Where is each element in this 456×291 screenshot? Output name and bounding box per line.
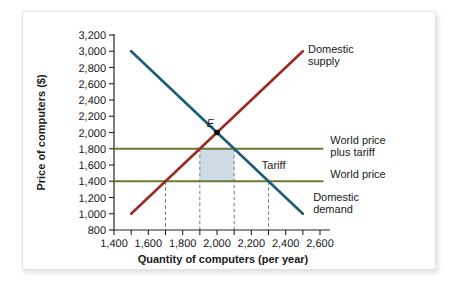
y-tick-label: 3,000 <box>78 46 106 58</box>
x-tick-label: 1,600 <box>135 238 163 250</box>
y-tick-label: 1,000 <box>78 209 106 221</box>
y-tick-label: 2,400 <box>78 95 106 107</box>
domestic-demand-label-line2: demand <box>313 203 353 215</box>
y-axis-title: Price of computers ($) <box>35 74 47 190</box>
y-tick-label: 2,800 <box>78 63 106 75</box>
domestic-supply-label-line1: Domestic <box>308 43 354 55</box>
x-tick-label: 1,400 <box>100 238 128 250</box>
tariff-annotation-label: Tariff <box>262 159 287 171</box>
plot-area: 8001,0001,2001,4001,6001,8002,0002,2002,… <box>35 30 386 265</box>
y-tick-label: 1,200 <box>78 193 106 205</box>
screenshot-root: 8001,0001,2001,4001,6001,8002,0002,2002,… <box>0 0 456 291</box>
y-tick-label: 1,600 <box>78 160 106 172</box>
x-tick-label: 1,800 <box>169 238 197 250</box>
y-tick-label: 2,600 <box>78 79 106 91</box>
world-price-plus-tariff-label-line2: plus tariff <box>330 146 375 158</box>
y-tick-label: 3,200 <box>78 30 106 42</box>
tariff-revenue-region <box>200 149 234 182</box>
y-tick-label: 2,200 <box>78 111 106 123</box>
y-tick-label: 1,800 <box>78 144 106 156</box>
equilibrium-label: E <box>207 117 215 129</box>
domestic-demand-label-line1: Domestic <box>313 191 359 203</box>
figure-card: 8001,0001,2001,4001,6001,8002,0002,2002,… <box>22 11 436 270</box>
y-tick-label: 800 <box>88 225 106 237</box>
world-price-label: World price <box>330 168 385 180</box>
y-tick-label: 1,400 <box>78 176 106 188</box>
world-price-plus-tariff-label-line1: World price <box>330 134 385 146</box>
x-tick-label: 2,200 <box>238 238 266 250</box>
x-tick-label: 2,400 <box>272 238 300 250</box>
x-axis-title: Quantity of computers (per year) <box>138 253 309 265</box>
y-tick-label: 2,000 <box>78 128 106 140</box>
equilibrium-point <box>214 130 220 136</box>
economics-tariff-chart: 8001,0001,2001,4001,6001,8002,0002,2002,… <box>23 12 437 271</box>
x-tick-label: 2,000 <box>203 238 231 250</box>
domestic-supply-label-line2: supply <box>308 55 340 67</box>
x-tick-label: 2,600 <box>306 238 334 250</box>
